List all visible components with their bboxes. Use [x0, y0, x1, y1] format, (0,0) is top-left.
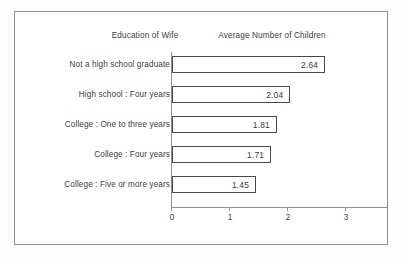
- bar-value-label: 2.64: [301, 57, 318, 72]
- category-label: College : Five or more years: [10, 176, 170, 193]
- x-tick-label: 3: [336, 213, 356, 222]
- x-tick-label: 2: [278, 213, 298, 222]
- bar-value-label: 1.45: [232, 177, 249, 192]
- x-tick-mark: [171, 207, 172, 211]
- x-tick-label: 0: [162, 213, 182, 222]
- x-tick-mark: [229, 207, 230, 211]
- bar-value-label: 1.71: [247, 147, 264, 162]
- x-tick-label: 1: [220, 213, 240, 222]
- x-axis-line: [171, 207, 387, 208]
- bar: 1.45: [172, 176, 256, 193]
- bar: 1.71: [172, 146, 271, 163]
- plot-area: 2.642.041.811.711.45 Not a high school g…: [0, 0, 406, 261]
- bar: 2.64: [172, 56, 325, 73]
- x-tick-mark: [345, 207, 346, 211]
- category-label: Not a high school graduate: [10, 56, 170, 73]
- category-label: High school : Four years: [10, 86, 170, 103]
- category-label: College : Four years: [10, 146, 170, 163]
- category-label: College : One to three years: [10, 116, 170, 133]
- bar-value-label: 1.81: [253, 117, 270, 132]
- y-axis-line: [171, 52, 172, 207]
- bar-value-label: 2.04: [266, 87, 283, 102]
- bar: 2.04: [172, 86, 290, 103]
- x-tick-mark: [287, 207, 288, 211]
- chart-figure: Education of Wife Average Number of Chil…: [0, 0, 406, 261]
- bar: 1.81: [172, 116, 277, 133]
